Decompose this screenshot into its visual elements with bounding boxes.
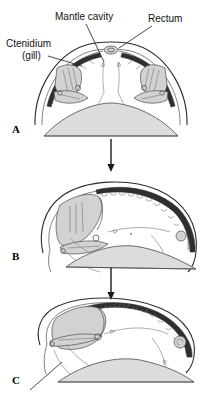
foot-c <box>58 359 194 382</box>
panel-label-b: B <box>12 250 20 262</box>
step-arrow-b-to-c <box>107 268 114 300</box>
visceral-mass-left-a <box>54 65 88 103</box>
panel-label-a: A <box>12 123 20 135</box>
rectum-a <box>104 46 118 54</box>
label-rectum: Rectum <box>148 13 182 24</box>
visceral-mass-right-a <box>134 65 168 103</box>
label-ctenidium: Ctenidium <box>6 38 51 49</box>
coil-spiral-c <box>174 336 186 348</box>
foot-a <box>44 103 178 136</box>
step-arrow-a-to-b <box>107 139 114 172</box>
panel-c-diagram <box>30 298 194 390</box>
panel-b-diagram <box>41 182 196 272</box>
label-mantle-cavity: Mantle cavity <box>55 11 113 22</box>
figure-canvas: Mantle cavity Rectum Ctenidium (gill) Fo… <box>0 0 221 394</box>
visceral-mass-b <box>56 194 102 245</box>
ctenidium-b <box>96 187 195 252</box>
label-ctenidium-gill: (gill) <box>22 50 41 61</box>
panel-label-c: C <box>12 374 20 386</box>
panel-a-diagram <box>35 42 187 136</box>
gill-filaments-b <box>101 192 183 234</box>
leader-line-c-lower <box>30 362 62 390</box>
